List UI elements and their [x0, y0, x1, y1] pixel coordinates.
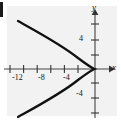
parabola-plot: [0, 0, 121, 123]
y-tick-label-minus4: -4: [76, 90, 83, 98]
x-tick-label-minus12: -12: [12, 74, 23, 82]
figure-panel: y x -12 -8 -4 4 -4: [0, 0, 121, 123]
x-tick-label-minus4: -4: [63, 74, 70, 82]
y-axis-label: y: [92, 3, 96, 12]
y-tick-label-4: 4: [79, 35, 83, 43]
x-tick-label-minus8: -8: [38, 74, 45, 82]
x-axis-label: x: [112, 63, 116, 72]
